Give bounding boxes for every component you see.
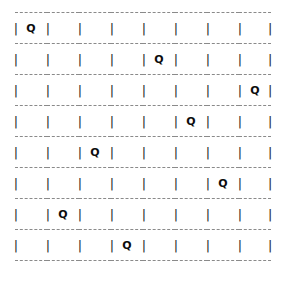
empty-square — [63, 248, 64, 249]
empty-cell[interactable]: | — [175, 13, 207, 44]
queen-cell[interactable]: |Q — [47, 199, 79, 230]
empty-square — [95, 186, 96, 187]
empty-cell[interactable]: | — [15, 75, 47, 106]
board-container: |Q|||||||||||||Q||||||||||||Q|||||||Q|||… — [0, 0, 285, 291]
empty-cell[interactable]: | — [175, 168, 207, 199]
queen-cell[interactable]: |Q — [15, 13, 47, 44]
empty-square — [63, 186, 64, 187]
empty-cell[interactable]: || — [239, 13, 271, 44]
empty-cell[interactable]: | — [143, 199, 175, 230]
empty-square — [31, 155, 32, 156]
empty-cell[interactable]: | — [111, 106, 143, 137]
empty-square — [95, 248, 96, 249]
empty-cell[interactable]: | — [111, 199, 143, 230]
empty-square — [31, 217, 32, 218]
empty-cell[interactable]: | — [79, 199, 111, 230]
empty-cell[interactable]: | — [15, 168, 47, 199]
queen-cell[interactable]: |Q — [111, 230, 143, 261]
cell-separator-pipe-icon: | — [266, 115, 274, 128]
board-row: ||||Q||||| — [15, 230, 271, 261]
empty-cell[interactable]: | — [111, 137, 143, 168]
empty-cell[interactable]: | — [143, 75, 175, 106]
empty-cell[interactable]: | — [79, 75, 111, 106]
empty-square — [95, 124, 96, 125]
empty-square — [31, 248, 32, 249]
empty-cell[interactable]: | — [143, 230, 175, 261]
empty-cell[interactable]: | — [15, 106, 47, 137]
empty-cell[interactable]: | — [143, 106, 175, 137]
empty-cell[interactable]: | — [79, 106, 111, 137]
empty-cell[interactable]: || — [239, 230, 271, 261]
empty-cell[interactable]: | — [207, 75, 239, 106]
empty-cell[interactable]: | — [143, 13, 175, 44]
empty-cell[interactable]: | — [79, 230, 111, 261]
empty-cell[interactable]: | — [111, 168, 143, 199]
queen-icon: Q — [154, 54, 163, 65]
empty-square — [95, 217, 96, 218]
empty-square — [223, 124, 224, 125]
board-row: ||||||Q||| — [15, 106, 271, 137]
cell-separator-pipe-icon: | — [266, 84, 274, 97]
empty-cell[interactable]: || — [239, 106, 271, 137]
empty-cell[interactable]: | — [47, 75, 79, 106]
empty-cell[interactable]: | — [207, 230, 239, 261]
cell-separator-pipe-icon: | — [12, 22, 20, 35]
empty-cell[interactable]: | — [175, 137, 207, 168]
empty-square — [255, 248, 256, 249]
empty-cell[interactable]: | — [15, 44, 47, 75]
empty-cell[interactable]: | — [47, 230, 79, 261]
empty-square — [95, 62, 96, 63]
empty-square — [127, 186, 128, 187]
empty-cell[interactable]: | — [47, 168, 79, 199]
empty-cell[interactable]: | — [47, 106, 79, 137]
queen-cell[interactable]: |Q| — [239, 75, 271, 106]
empty-square — [63, 124, 64, 125]
empty-cell[interactable]: | — [207, 106, 239, 137]
queen-cell[interactable]: |Q — [207, 168, 239, 199]
cell-separator-pipe-icon: | — [12, 177, 20, 190]
empty-square — [127, 62, 128, 63]
empty-cell[interactable]: || — [239, 199, 271, 230]
empty-cell[interactable]: | — [111, 75, 143, 106]
queen-cell[interactable]: |Q — [79, 137, 111, 168]
board-row: ||||||||Q| — [15, 75, 271, 106]
empty-cell[interactable]: || — [239, 137, 271, 168]
queen-cell[interactable]: |Q — [175, 106, 207, 137]
cell-separator-pipe-icon: | — [266, 177, 274, 190]
empty-cell[interactable]: || — [239, 44, 271, 75]
empty-cell[interactable]: | — [143, 137, 175, 168]
empty-cell[interactable]: | — [47, 44, 79, 75]
empty-cell[interactable]: | — [79, 168, 111, 199]
cell-separator-pipe-icon: | — [12, 53, 20, 66]
empty-cell[interactable]: | — [175, 230, 207, 261]
empty-square — [191, 155, 192, 156]
empty-square — [255, 62, 256, 63]
empty-cell[interactable]: | — [47, 137, 79, 168]
empty-cell[interactable]: | — [143, 168, 175, 199]
empty-square — [95, 31, 96, 32]
empty-cell[interactable]: | — [207, 13, 239, 44]
queen-cell[interactable]: |Q — [143, 44, 175, 75]
empty-cell[interactable]: | — [15, 230, 47, 261]
empty-cell[interactable]: || — [239, 168, 271, 199]
queens-board: |Q|||||||||||||Q||||||||||||Q|||||||Q|||… — [15, 12, 271, 261]
empty-cell[interactable]: | — [175, 199, 207, 230]
empty-cell[interactable]: | — [111, 13, 143, 44]
empty-cell[interactable]: | — [15, 137, 47, 168]
empty-cell[interactable]: | — [79, 44, 111, 75]
empty-cell[interactable]: | — [175, 75, 207, 106]
empty-cell[interactable]: | — [175, 44, 207, 75]
cell-separator-pipe-icon: | — [266, 208, 274, 221]
empty-square — [255, 124, 256, 125]
queen-icon: Q — [26, 23, 35, 34]
cell-separator-pipe-icon: | — [266, 146, 274, 159]
empty-cell[interactable]: | — [15, 199, 47, 230]
empty-cell[interactable]: | — [207, 137, 239, 168]
empty-cell[interactable]: | — [207, 44, 239, 75]
empty-cell[interactable]: | — [207, 199, 239, 230]
board-row: |Q|||||||| — [15, 13, 271, 44]
empty-square — [31, 124, 32, 125]
empty-cell[interactable]: | — [47, 13, 79, 44]
empty-cell[interactable]: | — [79, 13, 111, 44]
empty-cell[interactable]: | — [111, 44, 143, 75]
